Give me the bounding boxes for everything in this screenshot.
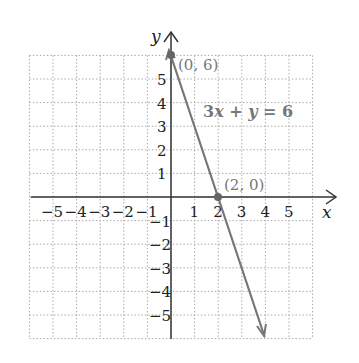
point-label-0-6: (0, 6) [178,56,218,74]
chart: x y −5−4−3−2−11234554321−1−2−3−4−5 (0, 6… [0,0,359,363]
svg-text:−3: −3 [149,260,171,278]
svg-text:2: 2 [157,142,167,160]
svg-text:1: 1 [190,203,200,221]
equation-label: 3x + y = 6 [203,102,293,121]
svg-text:5: 5 [284,203,294,221]
svg-text:4: 4 [260,203,270,221]
plot: x y −5−4−3−2−11234554321−1−2−3−4−5 (0, 6… [0,0,359,363]
svg-text:4: 4 [157,95,167,113]
svg-text:5: 5 [157,71,167,89]
svg-text:−5: −5 [41,203,63,221]
y-axis-label: y [150,26,161,46]
point-0-6 [167,51,175,59]
svg-text:−1: −1 [149,213,171,231]
svg-text:3: 3 [157,118,167,136]
svg-text:−4: −4 [149,283,171,301]
svg-text:−3: −3 [88,203,110,221]
svg-text:3: 3 [237,203,247,221]
x-axis-label: x [322,202,332,222]
svg-text:−5: −5 [149,307,171,325]
point-2-0 [214,193,222,201]
svg-text:−2: −2 [149,236,171,254]
point-label-2-0: (2, 0) [224,176,264,194]
svg-text:1: 1 [157,165,167,183]
svg-text:−4: −4 [65,203,87,221]
svg-text:−2: −2 [112,203,134,221]
